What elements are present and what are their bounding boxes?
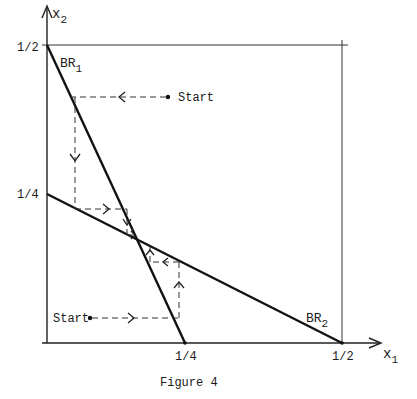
start-label-lower: Start: [53, 312, 89, 326]
x-axis-label: x1: [383, 346, 398, 366]
figure-caption: Figure 4: [160, 376, 218, 390]
x-tick-half: 1/2: [332, 350, 354, 364]
br1-label: BR1: [60, 56, 83, 75]
arrow-up-icon: [146, 250, 154, 255]
y-axis-label: x2: [52, 6, 67, 26]
start-label-upper: Start: [178, 91, 214, 105]
y-tick-half: 1/2: [17, 41, 39, 55]
x-tick-quarter-dot: [183, 341, 187, 345]
x-tick-half-dot: [340, 341, 344, 345]
y-tick-quarter: 1/4: [17, 188, 39, 202]
axes: [42, 6, 381, 348]
best-response-diagram: x2 x1 1/2 1/4 1/4 1/2 BR1 BR2 Start Star…: [0, 0, 417, 399]
br2-line: [47, 194, 342, 343]
x-tick-quarter: 1/4: [175, 350, 197, 364]
br1-line: [47, 45, 185, 343]
start-dot-upper: [166, 95, 170, 99]
upper-adjustment-path: [70, 92, 170, 239]
arrow-right-icon: [128, 313, 134, 323]
